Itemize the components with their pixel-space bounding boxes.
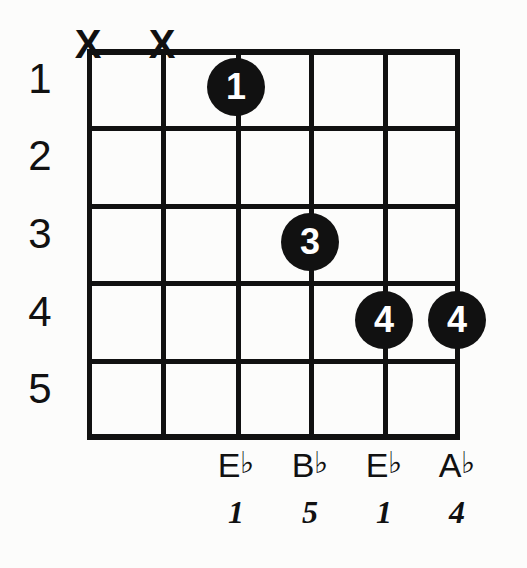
note-letter-string-5: E [366, 446, 389, 484]
finger-dot-string5-fret4: 4 [355, 291, 413, 349]
interval-string-4: 5 [275, 496, 345, 528]
fret-line-2 [87, 204, 460, 209]
flat-symbol-string-6: ♭ [461, 446, 475, 479]
note-name-string-6: A♭ [422, 448, 492, 482]
interval-string-5: 1 [349, 496, 419, 528]
flat-symbol-string-5: ♭ [388, 446, 402, 479]
chord-diagram-canvas: 1 2 3 4 5 X X 1 3 4 4 E♭ B♭ E♭ A♭ [0, 0, 527, 568]
fret-line-4 [87, 359, 460, 364]
string-line-5 [383, 49, 388, 440]
note-name-string-4: B♭ [275, 448, 345, 482]
flat-symbol-string-3: ♭ [240, 446, 254, 479]
note-letter-string-4: B [292, 446, 315, 484]
nut-line [87, 49, 460, 55]
finger-dot-string4-fret3: 3 [281, 213, 339, 271]
note-name-string-5: E♭ [349, 448, 419, 482]
string-line-2 [161, 49, 166, 440]
fret-number-4: 4 [16, 291, 64, 333]
fret-number-1: 1 [16, 58, 64, 100]
string-line-1 [87, 49, 92, 440]
mute-marker-string-2: X [145, 27, 179, 61]
note-letter-string-3: E [218, 446, 241, 484]
fret-number-5: 5 [16, 368, 64, 410]
fret-number-2: 2 [16, 135, 64, 177]
finger-dot-string3-fret1: 1 [207, 58, 265, 116]
string-line-6 [455, 49, 460, 440]
fret-line-5 [87, 434, 460, 440]
flat-symbol-string-4: ♭ [314, 446, 328, 479]
interval-string-3: 1 [201, 496, 271, 528]
fretboard-grid [87, 49, 460, 440]
fret-number-3: 3 [16, 213, 64, 255]
interval-string-6: 4 [422, 496, 492, 528]
mute-marker-string-1: X [71, 27, 105, 61]
fret-line-1 [87, 126, 460, 131]
note-letter-string-6: A [439, 446, 462, 484]
finger-dot-string6-fret4: 4 [428, 291, 486, 349]
note-name-string-3: E♭ [201, 448, 271, 482]
fret-line-3 [87, 281, 460, 286]
